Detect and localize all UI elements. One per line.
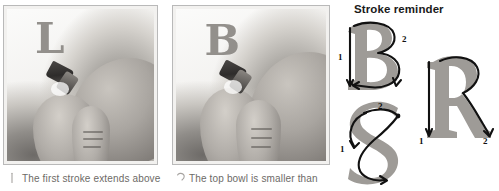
nib-highlight: [224, 80, 242, 94]
photo-panel-1: L: [3, 5, 158, 165]
stroke-number-1: 1: [340, 144, 345, 154]
finger-shape: [72, 106, 110, 161]
caption-1-text: The first stroke extends above: [22, 173, 160, 184]
knuckle-line: [251, 128, 272, 130]
stroke-path-1-arrow: [350, 141, 359, 148]
stroke-2-start-dot: [396, 114, 401, 119]
stroke-reminder-panel: Stroke reminder 1 2 1 2: [334, 0, 499, 191]
stroke-figure-b: 1 2: [338, 20, 412, 92]
glyph-s-fill: [348, 102, 398, 185]
stroke-number-2: 2: [402, 34, 407, 44]
bowl-arc-marker-icon: [176, 172, 187, 184]
photo-2-image: B: [176, 9, 326, 161]
stroke-number-2: 2: [483, 136, 488, 144]
photo-panel-2: B: [172, 5, 330, 165]
stroke-figure-s: 1 2: [340, 100, 412, 188]
written-letter-glyph: B: [205, 20, 241, 62]
knuckle-line: [251, 137, 272, 139]
stroke-number-1: 1: [338, 52, 343, 62]
finger-shape: [236, 100, 281, 161]
vertical-stroke-marker-icon: [9, 172, 20, 184]
stroke-reminder-title: Stroke reminder: [354, 3, 444, 15]
knuckle-line: [83, 146, 101, 148]
caption-2-text: The top bowl is smaller than: [189, 173, 318, 184]
stroke-figure-r: 1 2: [419, 48, 497, 144]
caption-1: The first stroke extends above: [9, 172, 160, 185]
nib-highlight: [51, 82, 69, 96]
glyph-r-fill: [427, 56, 491, 138]
written-letter-glyph: L: [35, 18, 65, 60]
stroke-path-1: [350, 28, 352, 84]
knuckle-line: [83, 131, 102, 133]
knuckle-line: [251, 146, 271, 148]
caption-2: The top bowl is smaller than: [176, 172, 318, 185]
photo-1-image: L: [7, 9, 154, 161]
stroke-number-1: 1: [419, 136, 424, 144]
knuckle-line: [83, 138, 102, 140]
stroke-number-2: 2: [378, 101, 383, 111]
